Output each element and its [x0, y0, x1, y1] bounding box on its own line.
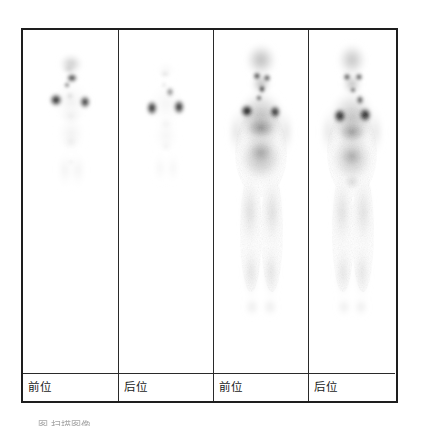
- panel-3-view-label: 前位: [219, 382, 242, 394]
- scan-image-2: [119, 30, 213, 373]
- scan-panel-4[interactable]: 后位: [309, 30, 395, 401]
- scan-panel-2[interactable]: 后位: [119, 30, 214, 401]
- scintigram-posterior-wholebody: [309, 32, 395, 322]
- scintigraphy-figure-frame: 前位: [21, 28, 398, 403]
- panel-4-view-label: 后位: [314, 382, 337, 394]
- scan-panel-3[interactable]: 前位: [214, 30, 309, 401]
- panel-1-view-label: 前位: [28, 382, 51, 394]
- panel-1-label-cell: 前位: [23, 373, 118, 401]
- scintigram-anterior-localized: [25, 50, 117, 230]
- panel-2-view-label: 后位: [124, 382, 147, 394]
- scan-image-3: [214, 30, 308, 373]
- scan-image-1: [23, 30, 118, 373]
- panel-3-label-cell: 前位: [214, 373, 308, 401]
- scintigram-posterior-localized: [120, 54, 212, 234]
- figure-caption: 图 扫描图像: [0, 419, 423, 426]
- figure-caption-text: 图 扫描图像: [0, 419, 423, 426]
- panel-2-label-cell: 后位: [119, 373, 213, 401]
- scintigram-anterior-wholebody: [215, 32, 307, 322]
- scan-panel-1[interactable]: 前位: [23, 30, 119, 401]
- panel-4-label-cell: 后位: [309, 373, 395, 401]
- scan-image-4: [309, 30, 395, 373]
